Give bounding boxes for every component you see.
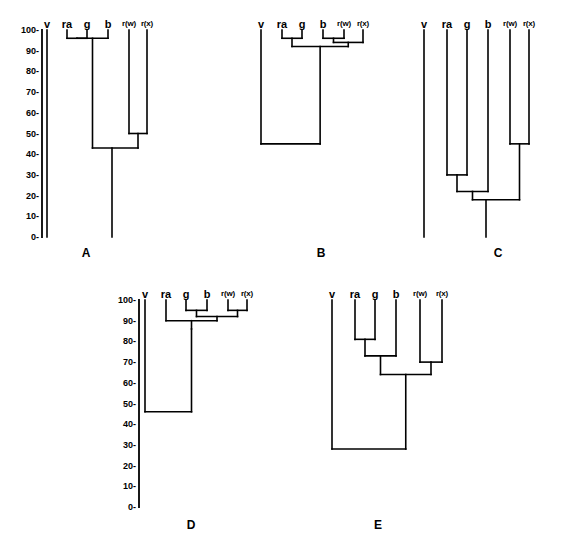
axis-tick-label: 90- [0, 46, 39, 56]
axis-tick-label: 80- [95, 336, 136, 346]
leaf-label-rx: r(x) [523, 18, 535, 30]
leaf-label-b: b [320, 18, 327, 30]
axis-tick-label: 50- [0, 129, 39, 139]
leaf-label-rx: r(x) [141, 18, 153, 30]
axis-tick-label: 50- [95, 399, 136, 409]
panel-a: 100-90-80-70-60-50-40-30-20-10-0-vragbr(… [0, 0, 190, 262]
axis-tick-label: 0- [95, 502, 136, 512]
axis-tick-label: 100- [0, 25, 39, 35]
panel-d: 100-90-80-70-60-50-40-30-20-10-0-vragbr(… [95, 268, 295, 533]
panel-letter-c: C [488, 246, 508, 260]
leaf-label-b: b [485, 18, 492, 30]
axis-tick-label: 70- [0, 87, 39, 97]
panel-e: vragbr(w)r(x)E [300, 268, 515, 533]
axis-tick-label: 60- [95, 378, 136, 388]
figure-dendrogram-panels: 100-90-80-70-60-50-40-30-20-10-0-vragbr(… [0, 0, 577, 533]
panel-letter-d: D [181, 518, 201, 532]
leaf-label-v: v [329, 288, 335, 300]
panel-b: vragbr(w)r(x)B [195, 0, 385, 262]
axis-tick-label: 40- [0, 149, 39, 159]
axis-tick-label: 90- [95, 316, 136, 326]
axis-tick-label: 100- [95, 295, 136, 305]
panel-letter-a: A [76, 246, 96, 260]
leaf-label-g: g [372, 288, 379, 300]
leaf-label-ra: ra [442, 18, 452, 30]
axis-tick-label: 40- [95, 419, 136, 429]
leaf-label-v: v [258, 18, 264, 30]
axis-tick-label: 20- [95, 461, 136, 471]
axis-tick-label: 0- [0, 232, 39, 242]
leaf-label-ra: ra [277, 18, 287, 30]
leaf-label-rw: r(w) [221, 288, 235, 300]
dendrogram-canvas [300, 268, 515, 533]
leaf-label-ra: ra [350, 288, 360, 300]
axis-tick-label: 10- [95, 481, 136, 491]
leaf-label-ra: ra [161, 288, 171, 300]
leaf-label-rw: r(w) [413, 288, 427, 300]
axis-tick-label: 80- [0, 66, 39, 76]
panel-letter-b: B [311, 246, 331, 260]
leaf-label-v: v [44, 18, 50, 30]
axis-tick-label: 30- [95, 440, 136, 450]
axis-tick-label: 70- [95, 357, 136, 367]
leaf-label-g: g [84, 18, 91, 30]
axis-tick-label: 30- [0, 170, 39, 180]
leaf-label-g: g [464, 18, 471, 30]
leaf-label-rx: r(x) [241, 288, 253, 300]
panel-letter-e: E [368, 518, 388, 532]
leaf-label-b: b [105, 18, 112, 30]
leaf-label-b: b [393, 288, 400, 300]
leaf-label-g: g [183, 288, 190, 300]
leaf-label-g: g [299, 18, 306, 30]
leaf-label-v: v [142, 288, 148, 300]
leaf-label-v: v [421, 18, 427, 30]
axis-tick-label: 10- [0, 211, 39, 221]
leaf-label-rw: r(w) [503, 18, 517, 30]
leaf-label-rx: r(x) [357, 18, 369, 30]
leaf-label-ra: ra [62, 18, 72, 30]
panel-c: vragbr(w)r(x)C [390, 0, 577, 262]
leaf-label-rw: r(w) [122, 18, 136, 30]
dendrogram-canvas [195, 0, 385, 262]
leaf-label-rx: r(x) [436, 288, 448, 300]
axis-tick-label: 60- [0, 108, 39, 118]
leaf-label-b: b [204, 288, 211, 300]
leaf-label-rw: r(w) [337, 18, 351, 30]
axis-tick-label: 20- [0, 191, 39, 201]
dendrogram-canvas [390, 0, 577, 262]
